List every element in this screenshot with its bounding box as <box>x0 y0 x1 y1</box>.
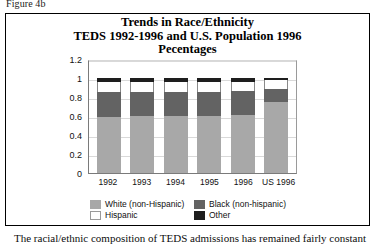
y-axis-tick-label: 1 <box>77 74 82 84</box>
legend-swatch-icon <box>194 211 205 220</box>
chart-title-line1: Trends in Race/Ethnicity <box>6 16 369 30</box>
y-axis-tick-label: 0 <box>77 169 82 179</box>
plot-wrapper: 1.210.80.60.40.20 19921993199419951996US… <box>6 57 371 177</box>
chart-title: Trends in Race/Ethnicity TEDS 1992-1996 … <box>6 16 369 57</box>
bar-stack[interactable] <box>231 78 255 173</box>
bar-group <box>89 61 296 173</box>
y-axis-tick-label: 0.2 <box>69 150 82 160</box>
y-axis: 1.210.80.60.40.20 <box>44 57 86 177</box>
figure-label: Figure 4b <box>6 0 46 9</box>
chart-title-line2: TEDS 1992-1996 and U.S. Population 1996 <box>6 30 369 44</box>
legend-swatch-icon <box>90 200 101 209</box>
legend-item[interactable]: Other <box>194 210 290 220</box>
bar-stack[interactable] <box>164 78 188 173</box>
bar-segment <box>264 80 288 90</box>
chart-title-line3: Pecentages <box>6 43 369 57</box>
bar-segment <box>164 82 188 92</box>
x-axis-tick-label: 1996 <box>228 177 258 187</box>
bar-segment <box>130 82 154 92</box>
y-axis-tick-label: 1.2 <box>69 55 82 65</box>
bar-segment <box>197 116 221 173</box>
bar-stack[interactable] <box>130 78 154 173</box>
legend-label: Black (non-hispanic) <box>209 199 286 209</box>
legend-swatch-icon <box>194 200 205 209</box>
x-axis-tick-label: US 1996 <box>262 177 292 187</box>
plot-area <box>88 60 297 174</box>
bar-stack[interactable] <box>264 78 288 173</box>
bar-segment <box>231 115 255 173</box>
bar-segment <box>197 92 221 116</box>
bar-stack[interactable] <box>197 78 221 173</box>
legend-item[interactable]: White (non-Hispanic) <box>90 199 194 209</box>
x-axis-tick-label: 1993 <box>127 177 157 187</box>
figure-caption: The racial/ethnic composition of TEDS ad… <box>14 232 364 244</box>
legend-label: Hispanic <box>105 210 138 220</box>
bar-segment <box>97 92 121 117</box>
bar-segment <box>97 82 121 92</box>
y-axis-tick-label: 0.4 <box>69 131 82 141</box>
bar-segment <box>264 102 288 173</box>
legend-label: White (non-Hispanic) <box>105 199 184 209</box>
bar-segment <box>231 82 255 92</box>
x-axis-tick-label: 1994 <box>161 177 191 187</box>
legend-label: Other <box>209 210 230 220</box>
legend-item[interactable]: Hispanic <box>90 210 194 220</box>
bar-segment <box>130 116 154 173</box>
chart-legend: White (non-Hispanic)Black (non-hispanic)… <box>90 199 290 220</box>
bar-segment <box>197 82 221 92</box>
legend-item[interactable]: Black (non-hispanic) <box>194 199 290 209</box>
bar-stack[interactable] <box>97 78 121 173</box>
bar-segment <box>164 116 188 173</box>
bar-segment <box>164 92 188 116</box>
bar-segment <box>264 89 288 101</box>
y-axis-tick-label: 0.8 <box>69 93 82 103</box>
x-axis-tick-label: 1992 <box>93 177 123 187</box>
x-axis-tick-label: 1995 <box>194 177 224 187</box>
bar-segment <box>97 117 121 173</box>
x-axis: 19921993199419951996US 1996 <box>88 177 297 187</box>
figure-box: Trends in Race/Ethnicity TEDS 1992-1996 … <box>5 13 370 226</box>
y-axis-tick-label: 0.6 <box>69 112 82 122</box>
bar-segment <box>231 91 255 115</box>
legend-swatch-icon <box>90 211 101 220</box>
bar-segment <box>130 92 154 116</box>
